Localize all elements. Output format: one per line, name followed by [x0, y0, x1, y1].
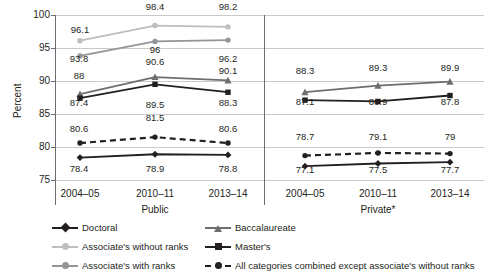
series-all-categories-combined-except-associate-s-without-ranks-private: [302, 150, 452, 158]
series-all-categories-combined-except-associate-s-without-ranks-public: [77, 134, 230, 145]
legend-item-doctoral[interactable]: Doctoral: [52, 222, 117, 233]
data-label-combined-private-3: 79: [430, 131, 470, 142]
circle-marker-icon: [225, 24, 230, 29]
data-label-masters-public-1: 87.4: [59, 97, 99, 108]
circle-marker-icon: [77, 140, 82, 145]
data-label-bacc-public-3: 90.1: [208, 65, 248, 76]
legend-label-doctoral: Doctoral: [82, 222, 117, 233]
data-label-bacc-public-1: 88: [59, 70, 99, 81]
circle-marker-icon: [62, 243, 69, 250]
square-marker-icon: [225, 90, 230, 95]
x-tick-private-2004-05: 2004–05: [273, 188, 337, 199]
data-label-bacc-private-2: 89.3: [358, 62, 398, 73]
data-label-doctoral-public-3: 78.8: [208, 163, 248, 174]
legend-item-baccalaureate[interactable]: Baccalaureate: [205, 222, 296, 233]
legend-item-associates-with-ranks[interactable]: Associate's with ranks: [52, 260, 175, 271]
circle-marker-icon: [62, 262, 69, 269]
data-label-combined-public-3: 80.6: [208, 123, 248, 134]
circle-marker-icon: [77, 38, 82, 43]
legend-swatch-doctoral-icon: [52, 223, 78, 233]
data-label-assoc-with-public-1: 93.8: [59, 53, 99, 64]
circle-marker-icon: [152, 134, 157, 139]
triangle-marker-icon: [214, 225, 222, 232]
legend-swatch-masters-icon: [205, 242, 231, 252]
data-label-assoc-with-public-2: 96: [135, 44, 175, 55]
x-tick-private-2013-14: 2013–14: [418, 188, 482, 199]
circle-marker-icon: [375, 150, 380, 155]
data-label-assoc-without-public-2: 98.4: [135, 1, 175, 12]
legend-label-masters: Master's: [235, 241, 271, 252]
square-marker-icon: [152, 82, 157, 87]
legend-swatch-associates-without-ranks-icon: [52, 242, 78, 252]
data-label-combined-private-1: 78.7: [285, 131, 325, 142]
legend-swatch-baccalaureate-icon: [205, 223, 231, 233]
data-label-assoc-without-public-3: 98.2: [208, 1, 248, 12]
circle-marker-icon: [302, 153, 307, 158]
chart-legend: Doctoral Baccalaureate Associate's witho…: [0, 222, 489, 280]
data-label-combined-public-2: 81.5: [135, 112, 175, 123]
square-marker-icon: [215, 243, 222, 250]
circle-marker-icon: [152, 23, 157, 28]
circle-marker-icon: [447, 151, 452, 156]
data-label-assoc-with-public-3: 96.2: [208, 53, 248, 64]
data-label-masters-private-2: 86.9: [358, 96, 398, 107]
data-label-combined-private-2: 79.1: [358, 131, 398, 142]
data-label-combined-public-1: 80.6: [59, 123, 99, 134]
diamond-marker-icon: [77, 154, 84, 161]
panel-label-private: Private*: [348, 204, 408, 215]
diamond-marker-icon: [61, 222, 71, 232]
legend-swatch-associates-with-ranks-icon: [52, 261, 78, 271]
x-tick-public-2013-14: 2013–14: [196, 188, 260, 199]
x-tick-public-2004-05: 2004–05: [48, 188, 112, 199]
circle-marker-icon: [215, 262, 222, 269]
legend-item-masters[interactable]: Master's: [205, 241, 271, 252]
legend-label-associates-without-ranks: Associate's without ranks: [82, 241, 188, 252]
legend-label-baccalaureate: Baccalaureate: [235, 222, 296, 233]
chart-container: Percent 100 95 90 85 80 75: [0, 0, 489, 280]
legend-item-associates-without-ranks[interactable]: Associate's without ranks: [52, 241, 188, 252]
data-label-masters-private-1: 87.1: [285, 96, 325, 107]
data-label-bacc-private-3: 89.9: [430, 62, 470, 73]
circle-marker-icon: [225, 140, 230, 145]
diamond-marker-icon: [225, 152, 232, 159]
data-label-masters-public-2: 89.5: [135, 99, 175, 110]
data-label-assoc-without-public-1: 96.1: [60, 24, 100, 35]
data-label-doctoral-private-2: 77.5: [358, 164, 398, 175]
data-label-doctoral-private-1: 77.1: [285, 164, 325, 175]
panel-label-public: Public: [125, 204, 185, 215]
data-label-masters-private-3: 87.8: [430, 96, 470, 107]
circle-marker-icon: [225, 37, 230, 42]
data-label-doctoral-private-3: 77.7: [430, 164, 470, 175]
data-label-bacc-private-1: 88.3: [285, 65, 325, 76]
series-doctoral-public: [77, 151, 232, 161]
data-label-masters-public-3: 88.3: [208, 97, 248, 108]
x-tick-private-2010-11: 2010–11: [346, 188, 410, 199]
legend-label-all-categories-combined: All categories combined except associate…: [235, 260, 474, 271]
data-label-bacc-public-2: 90.6: [135, 56, 175, 67]
diamond-marker-icon: [152, 151, 159, 158]
legend-swatch-all-categories-combined-icon: [205, 261, 231, 271]
x-tick-public-2010-11: 2010–11: [123, 188, 187, 199]
data-label-doctoral-public-2: 78.9: [135, 163, 175, 174]
y-axis-spine: [51, 15, 55, 205]
legend-label-associates-with-ranks: Associate's with ranks: [82, 260, 175, 271]
legend-item-all-categories-combined[interactable]: All categories combined except associate…: [205, 260, 474, 271]
data-label-doctoral-public-1: 78.4: [59, 163, 99, 174]
